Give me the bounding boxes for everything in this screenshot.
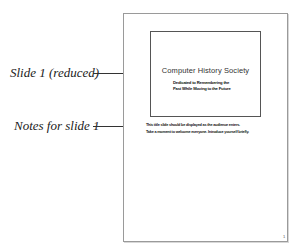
notes-line: This title slide should be displayed as … [146,122,249,129]
slide-thumbnail: Computer History Society Dedicated to Re… [150,31,261,117]
slide-subtitle-line: Past While Moving to the Future [173,86,231,92]
slide-callout-label: Slide 1 (reduced) [10,66,99,79]
notes-line: Take a moment to welcome everyone. Intro… [146,129,249,136]
slide-subtitle: Dedicated to Remembering the Past While … [173,80,231,92]
slide-title: Computer History Society [151,66,260,75]
notes-leader-line [93,126,124,127]
speaker-notes: This title slide should be displayed as … [146,122,249,136]
notes-callout-label: Notes for slide 1 [14,119,100,132]
page-number: 1 [283,234,285,239]
